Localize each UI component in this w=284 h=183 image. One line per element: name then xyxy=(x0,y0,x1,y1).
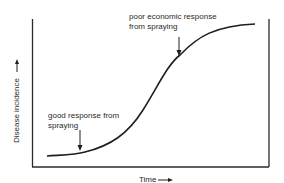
disease-progress-diagram: poor economic response from spraying goo… xyxy=(0,0,284,183)
disease-curve xyxy=(47,24,255,156)
late-annotation-line-2: from spraying xyxy=(129,22,217,32)
y-axis-arrow-icon xyxy=(15,59,19,72)
early-annotation-line-2: spraying xyxy=(48,121,119,131)
x-axis-label: Time xyxy=(139,175,156,183)
early-annotation-line-1: good response from xyxy=(48,111,119,121)
late-annotation: poor economic response from spraying xyxy=(129,12,217,32)
late-annotation-line-1: poor economic response xyxy=(129,12,217,22)
early-arrow-icon xyxy=(78,130,83,151)
x-axis-arrow-icon xyxy=(158,178,173,182)
y-axis-label: Disease incidence xyxy=(12,78,21,143)
early-annotation: good response from spraying xyxy=(48,111,119,131)
